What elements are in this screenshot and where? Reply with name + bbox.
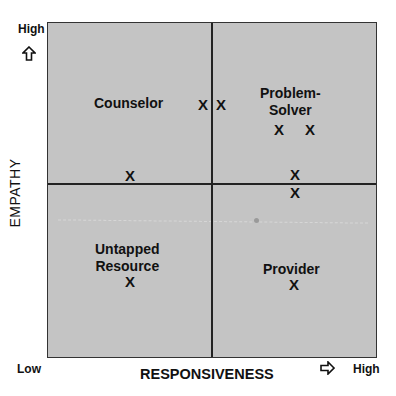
x-axis-low-label: Low — [17, 362, 41, 376]
data-point: X — [289, 277, 299, 292]
untapped-line-1: Untapped — [95, 241, 160, 258]
problem-solver-line-1: Problem- — [260, 85, 321, 102]
data-point: X — [216, 97, 226, 112]
x-axis-high-label: High — [353, 362, 380, 376]
data-point: X — [125, 168, 135, 183]
data-point: X — [125, 274, 135, 289]
quadrant-plot: Counselor Problem- Solver Untapped Resou… — [47, 22, 377, 358]
data-point: X — [290, 185, 300, 200]
scan-artifact-line — [58, 219, 368, 223]
data-point: X — [274, 122, 284, 137]
up-arrow-icon — [22, 46, 36, 62]
data-point: X — [305, 122, 315, 137]
scan-artifact-dot — [254, 218, 259, 223]
quadrant-label-problem-solver: Problem- Solver — [260, 85, 321, 119]
y-axis-title: EMPATHY — [7, 158, 23, 227]
right-arrow-icon — [319, 361, 335, 375]
quadrant-label-counselor: Counselor — [94, 95, 163, 112]
horizontal-divider — [48, 183, 376, 185]
data-point: X — [198, 97, 208, 112]
vertical-divider — [211, 23, 213, 357]
data-point: X — [290, 167, 300, 182]
x-axis-title: RESPONSIVENESS — [140, 366, 274, 382]
y-axis-high-label: High — [18, 22, 45, 36]
problem-solver-line-2: Solver — [260, 102, 321, 119]
quadrant-label-untapped-resource: Untapped Resource — [95, 241, 160, 275]
